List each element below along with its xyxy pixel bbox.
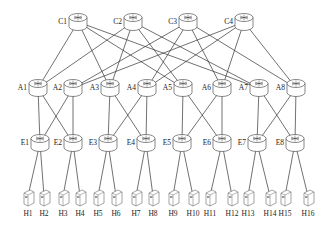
links-layer <box>28 22 308 196</box>
router-label: E6 <box>203 138 212 147</box>
server-icon <box>94 190 104 206</box>
router-c1[interactable]: C1 <box>58 14 87 31</box>
host-label: H14 <box>264 209 277 218</box>
host-h8[interactable]: H8 <box>148 190 159 218</box>
host-label: H6 <box>111 209 120 218</box>
host-h14[interactable]: H14 <box>264 190 277 218</box>
host-label: H15 <box>279 209 292 218</box>
server-icon <box>244 190 254 206</box>
link-C4-A2 <box>73 22 244 88</box>
router-label: A4 <box>127 83 136 92</box>
router-e6[interactable]: E6 <box>203 135 231 152</box>
link-C3-A8 <box>188 22 296 88</box>
server-icon <box>281 190 291 206</box>
server-icon <box>304 190 314 206</box>
router-e5[interactable]: E5 <box>163 135 191 152</box>
host-label: H9 <box>168 209 177 218</box>
link-C4-A8 <box>244 22 296 88</box>
server-icon <box>149 190 159 206</box>
server-icon <box>206 190 216 206</box>
host-label: H1 <box>23 209 32 218</box>
router-label: C1 <box>58 17 67 26</box>
router-e3[interactable]: E3 <box>89 135 117 152</box>
host-h1[interactable]: H1 <box>23 190 34 218</box>
router-label: A2 <box>53 83 62 92</box>
link-C3-A2 <box>73 22 188 88</box>
router-label: E3 <box>89 138 98 147</box>
host-label: H8 <box>148 209 157 218</box>
host-label: H4 <box>75 209 84 218</box>
host-h13[interactable]: H13 <box>242 190 255 218</box>
router-label: E7 <box>238 138 247 147</box>
link-C2-A3 <box>110 22 133 88</box>
router-label: E1 <box>21 138 30 147</box>
router-a1[interactable]: A1 <box>18 80 47 97</box>
server-icon <box>132 190 142 206</box>
host-h9[interactable]: H9 <box>168 190 179 218</box>
router-label: A5 <box>163 83 172 92</box>
host-label: H3 <box>58 209 67 218</box>
router-label: E8 <box>276 138 285 147</box>
router-label: A3 <box>90 83 99 92</box>
router-label: A8 <box>276 83 285 92</box>
host-h6[interactable]: H6 <box>111 190 122 218</box>
nodes-layer: C1C2C3C4A1A2A3A4A5A6A7A8E1E2E3E4E5E6E7E8… <box>18 14 315 219</box>
server-icon <box>112 190 122 206</box>
link-C1-A1 <box>38 22 78 88</box>
router-label: E4 <box>127 138 136 147</box>
host-h2[interactable]: H2 <box>39 190 50 218</box>
router-a7[interactable]: A7 <box>239 80 268 97</box>
link-A3-E4 <box>110 88 146 143</box>
diagram-canvas: C1C2C3C4A1A2A3A4A5A6A7A8E1E2E3E4E5E6E7E8… <box>0 0 335 227</box>
host-label: H5 <box>93 209 102 218</box>
router-label: A1 <box>18 83 27 92</box>
router-a8[interactable]: A8 <box>276 80 305 97</box>
router-label: E2 <box>54 138 63 147</box>
host-label: H2 <box>39 209 48 218</box>
host-label: H11 <box>204 209 217 218</box>
server-icon <box>76 190 86 206</box>
link-C3-A6 <box>188 22 222 88</box>
router-label: E5 <box>163 138 172 147</box>
link-A7-E8 <box>259 88 295 143</box>
host-label: H16 <box>302 209 315 218</box>
host-h3[interactable]: H3 <box>58 190 69 218</box>
server-icon <box>169 190 179 206</box>
router-a2[interactable]: A2 <box>53 80 82 97</box>
host-h5[interactable]: H5 <box>93 190 104 218</box>
router-e4[interactable]: E4 <box>127 135 155 152</box>
router-label: C4 <box>224 17 233 26</box>
router-label: A7 <box>239 83 248 92</box>
router-label: C3 <box>168 17 177 26</box>
host-h11[interactable]: H11 <box>204 190 217 218</box>
router-label: C2 <box>113 17 122 26</box>
link-C4-A4 <box>147 22 244 88</box>
server-icon <box>189 190 199 206</box>
router-a4[interactable]: A4 <box>127 80 156 97</box>
host-label: H7 <box>131 209 140 218</box>
host-label: H10 <box>187 209 200 218</box>
fat-tree-diagram: C1C2C3C4A1A2A3A4A5A6A7A8E1E2E3E4E5E6E7E8… <box>0 0 335 227</box>
router-e2[interactable]: E2 <box>54 135 82 152</box>
router-a5[interactable]: A5 <box>163 80 192 97</box>
router-a6[interactable]: A6 <box>202 80 231 97</box>
host-h12[interactable]: H12 <box>226 190 239 218</box>
server-icon <box>40 190 50 206</box>
host-label: H12 <box>226 209 239 218</box>
host-h7[interactable]: H7 <box>131 190 142 218</box>
router-c2[interactable]: C2 <box>113 14 142 31</box>
router-c3[interactable]: C3 <box>168 14 197 31</box>
host-h16[interactable]: H16 <box>302 190 315 218</box>
router-e8[interactable]: E8 <box>276 135 304 152</box>
server-icon <box>266 190 276 206</box>
router-label: A6 <box>202 83 211 92</box>
server-icon <box>24 190 34 206</box>
router-a3[interactable]: A3 <box>90 80 119 97</box>
server-icon <box>228 190 238 206</box>
router-e7[interactable]: E7 <box>238 135 266 152</box>
host-h15[interactable]: H15 <box>279 190 292 218</box>
host-h4[interactable]: H4 <box>75 190 86 218</box>
server-icon <box>59 190 69 206</box>
host-h10[interactable]: H10 <box>187 190 200 218</box>
router-e1[interactable]: E1 <box>21 135 49 152</box>
